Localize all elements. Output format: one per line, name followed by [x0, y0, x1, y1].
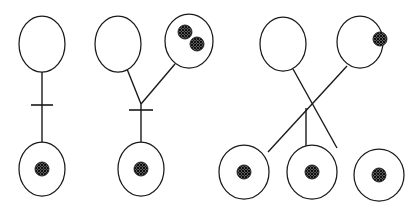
- chromosome-marker-icon: [190, 37, 204, 51]
- chromosome-marker-icon: [35, 162, 49, 176]
- node-parent-empty[interactable]: [95, 16, 141, 72]
- edge-parent1-to-junction: [127, 69, 141, 104]
- node-child-one-marker[interactable]: [19, 142, 65, 196]
- panel-1: [19, 16, 65, 196]
- cell-outline: [19, 16, 65, 72]
- node-child-one-marker[interactable]: [287, 145, 337, 199]
- node-parent-one-marker[interactable]: [337, 16, 387, 68]
- cell-outline: [95, 16, 141, 72]
- cell-outline: [260, 17, 306, 71]
- chromosome-marker-icon: [373, 32, 387, 46]
- panel-2: [95, 14, 213, 196]
- chromosome-marker-icon: [178, 25, 192, 39]
- edge-parent1-to-child3: [293, 69, 337, 148]
- node-child-one-marker[interactable]: [354, 149, 404, 201]
- node-parent-empty[interactable]: [260, 17, 306, 71]
- cell-outline: [165, 14, 213, 68]
- node-child-one-marker[interactable]: [219, 145, 269, 199]
- node-parent-empty[interactable]: [19, 16, 65, 72]
- edge-parent2-to-junction: [141, 64, 175, 104]
- edge-parent2-to-child1: [268, 66, 347, 152]
- chromosome-marker-icon: [237, 165, 251, 179]
- panel-3: [219, 16, 404, 201]
- chromosome-marker-icon: [305, 165, 319, 179]
- node-child-one-marker[interactable]: [118, 142, 164, 196]
- diagram-canvas: [0, 0, 416, 210]
- lineage-diagram: [0, 0, 416, 210]
- chromosome-marker-icon: [134, 162, 148, 176]
- chromosome-marker-icon: [372, 168, 386, 182]
- node-parent-two-markers[interactable]: [165, 14, 213, 68]
